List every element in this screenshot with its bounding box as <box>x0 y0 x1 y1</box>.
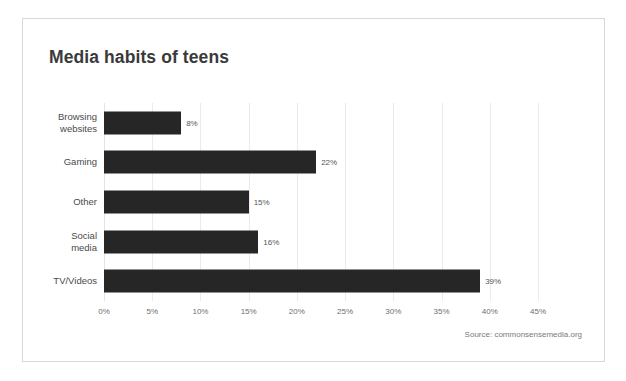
bar-row: Social media16% <box>104 222 538 262</box>
x-axis: 0%5%10%15%20%25%30%35%40%45% <box>104 307 538 321</box>
bar-value-label: 15% <box>249 197 270 206</box>
x-tick-label: 5% <box>146 307 158 316</box>
bar <box>104 270 480 293</box>
category-label: Other <box>0 196 97 208</box>
x-tick-label: 35% <box>434 307 450 316</box>
source-caption: Source: commonsensemedia.org <box>465 330 582 339</box>
bar-row: Gaming22% <box>104 143 538 183</box>
bar-value-label: 8% <box>181 118 198 127</box>
x-tick-label: 0% <box>98 307 110 316</box>
bar <box>104 190 249 213</box>
chart-card: Media habits of teens Browsing websites8… <box>22 18 605 362</box>
x-tick-label: 30% <box>385 307 401 316</box>
gridline-45% <box>538 103 539 301</box>
x-tick-label: 40% <box>482 307 498 316</box>
bar-value-label: 16% <box>258 237 279 246</box>
category-label: Browsing websites <box>0 111 97 135</box>
bar <box>104 111 181 134</box>
x-tick-label: 45% <box>530 307 546 316</box>
x-tick-label: 10% <box>192 307 208 316</box>
x-tick-label: 25% <box>337 307 353 316</box>
bar <box>104 230 258 253</box>
x-tick-label: 15% <box>241 307 257 316</box>
bar-value-label: 39% <box>480 277 501 286</box>
bar-value-label: 22% <box>316 158 337 167</box>
category-label: Gaming <box>0 156 97 168</box>
bar-row: Browsing websites8% <box>104 103 538 143</box>
category-label: TV/Videos <box>0 275 97 287</box>
bar-series: Browsing websites8%Gaming22%Other15%Soci… <box>104 103 538 301</box>
bar <box>104 151 316 174</box>
chart-title: Media habits of teens <box>49 47 229 68</box>
bar-row: TV/Videos39% <box>104 261 538 301</box>
plot-area: Browsing websites8%Gaming22%Other15%Soci… <box>104 103 538 301</box>
x-tick-label: 20% <box>289 307 305 316</box>
category-label: Social media <box>0 230 97 254</box>
bar-row: Other15% <box>104 182 538 222</box>
